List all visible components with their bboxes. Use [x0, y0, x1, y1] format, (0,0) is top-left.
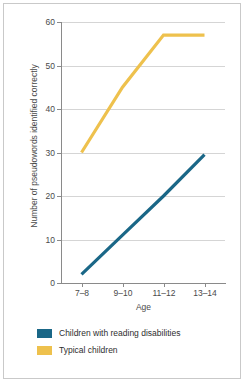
legend-item: Children with reading disabilities — [37, 326, 227, 340]
figure: 0102030405060 7–89–1011–1213–14 Age Numb… — [0, 0, 244, 382]
legend-swatch — [37, 346, 52, 355]
series-line — [82, 35, 205, 152]
legend-item: Typical children — [37, 343, 227, 357]
x-axis-title: Age — [61, 302, 226, 312]
legend-label: Children with reading disabilities — [59, 329, 180, 338]
chart-legend: Children with reading disabilitiesTypica… — [37, 326, 227, 360]
series-line — [82, 155, 205, 275]
chart-plot-region: 0102030405060 7–89–1011–1213–14 Age Numb… — [0, 0, 244, 382]
legend-label: Typical children — [59, 346, 118, 355]
legend-swatch — [37, 329, 52, 338]
y-axis-title: Number of pseudowords identified correct… — [29, 56, 39, 236]
